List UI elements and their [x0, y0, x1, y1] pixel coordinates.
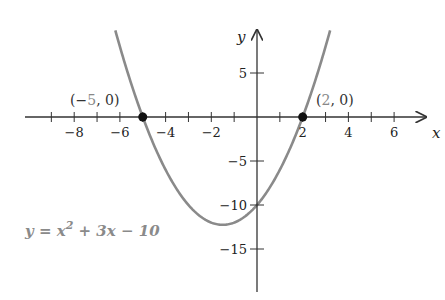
x-tick-label: −2: [202, 125, 221, 140]
parabola-chart: −8−6−4−22465−5−10−15xy (−5, 0)(2, 0) y =…: [0, 0, 445, 300]
intercept-label: (−5, 0): [70, 92, 119, 108]
y-tick-label: −10: [220, 198, 247, 213]
y-tick-label: −5: [228, 154, 247, 169]
intercept-label: (2, 0): [316, 92, 354, 108]
x-tick-label: 4: [344, 125, 352, 140]
axes: −8−6−4−22465−5−10−15xy: [25, 28, 441, 292]
intercept-point: [298, 113, 307, 122]
x-tick-label: 2: [299, 125, 307, 140]
intercept-point: [138, 113, 147, 122]
x-tick-label: −6: [110, 125, 129, 140]
x-tick-label: −4: [156, 125, 175, 140]
equation-label: y = x2 + 3x − 10: [24, 219, 160, 240]
y-tick-label: −15: [220, 242, 247, 257]
y-tick-label: 5: [239, 66, 247, 81]
y-axis-label: y: [236, 28, 246, 46]
x-axis-label: x: [432, 124, 441, 142]
x-tick-label: 6: [390, 125, 398, 140]
x-tick-label: −8: [65, 125, 84, 140]
